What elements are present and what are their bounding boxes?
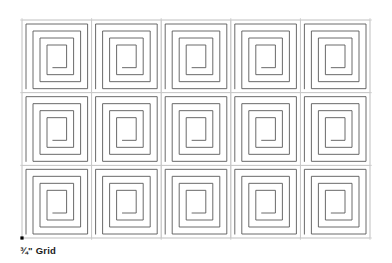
spiral-motif-path <box>165 97 227 162</box>
spiral-tile-r1-c3 <box>231 93 301 166</box>
spiral-tile-r0-c0 <box>22 20 92 93</box>
spiral-motif-path <box>96 97 158 162</box>
spiral-motif-path <box>235 97 297 162</box>
origin-anchor-dot <box>20 236 23 239</box>
spiral-motif-path <box>304 24 366 89</box>
spiral-tile-r1-c4 <box>300 93 370 166</box>
spiral-tile-r1-c0 <box>22 93 92 166</box>
spiral-tile-layer <box>22 20 370 238</box>
spiral-motif-path <box>26 24 88 89</box>
grid-caption-label: ¾" Grid <box>20 245 56 256</box>
spiral-tile-r0-c1 <box>92 20 162 93</box>
spiral-tile-r1-c1 <box>92 93 162 166</box>
pattern-canvas <box>0 0 392 263</box>
spiral-tile-r2-c1 <box>92 165 162 238</box>
spiral-motif-path <box>235 24 297 89</box>
spiral-motif-path <box>26 97 88 162</box>
spiral-motif-path <box>235 169 297 234</box>
spiral-tile-r0-c2 <box>161 20 231 93</box>
pattern-sheet-page: ¾" Grid <box>0 0 392 263</box>
spiral-motif-path <box>165 169 227 234</box>
spiral-tile-r2-c2 <box>161 165 231 238</box>
spiral-tile-r2-c3 <box>231 165 301 238</box>
guide-grid-lines <box>20 18 372 240</box>
spiral-tile-r1-c2 <box>161 93 231 166</box>
spiral-tile-r0-c3 <box>231 20 301 93</box>
spiral-motif-path <box>26 169 88 234</box>
spiral-tile-r0-c4 <box>300 20 370 93</box>
spiral-motif-path <box>165 24 227 89</box>
spiral-tile-r2-c4 <box>300 165 370 238</box>
spiral-tile-r2-c0 <box>22 165 92 238</box>
spiral-motif-path <box>304 169 366 234</box>
spiral-motif-path <box>96 169 158 234</box>
anchor-dot-layer <box>20 236 23 239</box>
spiral-motif-path <box>96 24 158 89</box>
spiral-motif-path <box>304 97 366 162</box>
